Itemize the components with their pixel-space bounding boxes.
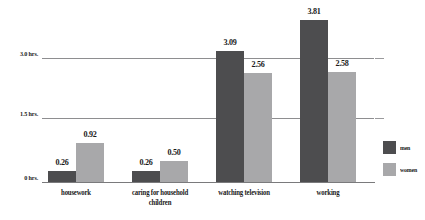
legend-item-women: women <box>383 163 419 176</box>
y-axis-tick-label-1: 0 hrs. <box>5 174 38 182</box>
gridline-tick-3hrs-right <box>375 58 384 59</box>
bar-television-women <box>244 73 272 182</box>
value-label-television-women: 2.56 <box>245 59 270 69</box>
legend-item-men: men <box>383 141 419 154</box>
category-label-working: working <box>294 188 362 198</box>
bar-caring-women <box>160 161 188 182</box>
bar-television-men <box>216 51 244 182</box>
value-label-working-men: 3.81 <box>301 6 326 16</box>
bar-housework-women <box>76 143 104 182</box>
category-label-caring: caring for household children <box>117 188 203 208</box>
bar-working-men <box>300 20 328 182</box>
bar-chart: 3.0 hrs. 1.5 hrs. 0 hrs. 0.26 0.92 0.26 … <box>0 0 425 220</box>
legend: men women <box>383 141 419 185</box>
y-axis-tick-label-3: 3.0 hrs. <box>5 50 38 58</box>
x-axis-baseline <box>42 182 375 183</box>
category-label-television: watching television <box>206 188 282 198</box>
bar-caring-men <box>132 171 160 182</box>
legend-swatch-women-icon <box>383 163 396 176</box>
value-label-working-women: 2.58 <box>329 58 354 68</box>
value-label-housework-women: 0.92 <box>77 129 102 139</box>
category-label-housework-line1: housework <box>42 188 110 198</box>
gridline-tick-1-5hrs-right <box>375 118 384 119</box>
value-label-television-men: 3.09 <box>217 37 242 47</box>
category-label-caring-line1: caring for household <box>117 188 203 198</box>
value-label-housework-men: 0.26 <box>49 157 74 167</box>
category-label-television-line1: watching television <box>206 188 282 198</box>
category-label-working-line1: working <box>294 188 362 198</box>
y-axis-tick-label-2: 1.5 hrs. <box>5 110 38 118</box>
legend-label-women: women <box>400 166 417 173</box>
bar-housework-men <box>48 171 76 182</box>
bar-working-women <box>328 72 356 182</box>
legend-swatch-men-icon <box>383 141 396 154</box>
value-label-caring-women: 0.50 <box>161 147 186 157</box>
legend-label-men: men <box>400 144 410 151</box>
category-label-housework: housework <box>42 188 110 198</box>
value-label-caring-men: 0.26 <box>133 157 158 167</box>
category-label-caring-line2: children <box>117 198 203 208</box>
